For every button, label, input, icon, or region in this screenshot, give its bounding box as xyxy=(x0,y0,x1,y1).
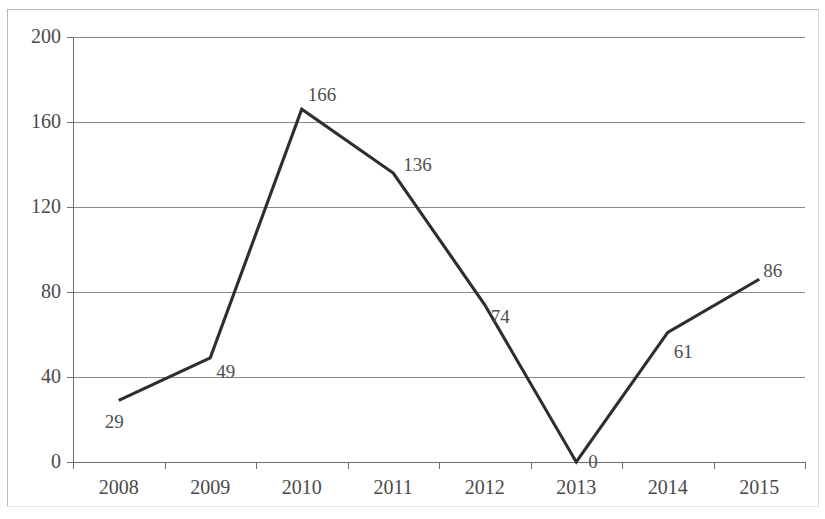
gridlines-group xyxy=(73,38,805,378)
x-tick-label-2012: 2012 xyxy=(439,477,531,497)
y-tick-label-160: 160 xyxy=(0,111,61,131)
point-label-2009: 49 xyxy=(216,362,235,381)
x-tick-label-2009: 2009 xyxy=(165,477,257,497)
axis-group xyxy=(73,37,805,463)
x-tick-label-2010: 2010 xyxy=(256,477,348,497)
y-tick-label-120: 120 xyxy=(0,196,61,216)
point-label-2010: 166 xyxy=(308,85,337,104)
point-label-2014: 61 xyxy=(674,342,693,361)
point-label-2008: 29 xyxy=(105,412,124,431)
x-tick-label-2014: 2014 xyxy=(622,477,714,497)
point-label-2013: 0 xyxy=(588,452,598,471)
x-tick-label-2015: 2015 xyxy=(714,477,806,497)
chart-figure: 04080120160200 2008200920102011201220132… xyxy=(0,0,825,519)
y-tick-label-40: 40 xyxy=(0,366,61,386)
y-tick-label-200: 200 xyxy=(0,26,61,46)
y-tick-label-0: 0 xyxy=(0,451,61,471)
x-tick-label-2008: 2008 xyxy=(73,477,165,497)
data-series-line xyxy=(119,109,760,462)
point-label-2012: 74 xyxy=(491,307,510,326)
line-chart-plot xyxy=(0,0,825,519)
x-tick-label-2013: 2013 xyxy=(531,477,623,497)
y-tick-marks-group xyxy=(67,38,73,463)
y-tick-label-80: 80 xyxy=(0,281,61,301)
point-label-2015: 86 xyxy=(763,261,782,280)
point-label-2011: 136 xyxy=(403,155,432,174)
x-tick-label-2011: 2011 xyxy=(348,477,440,497)
